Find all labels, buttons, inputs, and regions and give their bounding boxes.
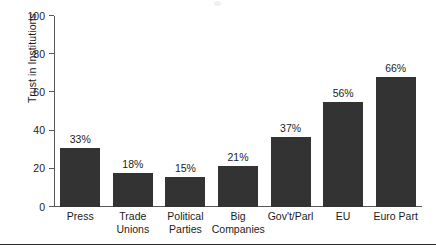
x-axis-tick-label: TradeUnions: [107, 210, 160, 235]
bar-chart-figure: Trust in Institutions 020406080100 33%18…: [0, 0, 436, 252]
bar: [113, 173, 153, 207]
bar: [323, 102, 363, 207]
bar-value-label: 56%: [333, 87, 354, 99]
y-axis-tick-label: 0: [39, 201, 45, 213]
y-axis-tick-label: 100: [27, 10, 45, 22]
x-axis-tick-labels: PressTradeUnionsPoliticalPartiesBigCompa…: [54, 210, 422, 246]
bar: [376, 77, 416, 207]
bar-value-label: 37%: [280, 122, 301, 134]
bar-value-label: 66%: [385, 62, 406, 74]
y-axis-tick-label: 80: [33, 48, 45, 60]
bar-value-label: 33%: [70, 133, 91, 145]
y-axis-tick-label: 60: [33, 86, 45, 98]
bar: [60, 148, 100, 207]
x-axis-tick-label: Gov't/Parl: [264, 210, 317, 223]
bar-value-label: 18%: [122, 158, 143, 170]
bar-value-label: 21%: [227, 151, 248, 163]
x-axis-tick-label: Euro Part: [369, 210, 422, 223]
x-axis-label-line: Gov't/Parl: [264, 210, 317, 223]
x-axis-label-line: Parties: [159, 223, 212, 236]
bar-group: 56%: [323, 16, 363, 207]
x-axis-label-line: Political: [159, 210, 212, 223]
bar-group: 37%: [271, 16, 311, 207]
bar-group: 18%: [113, 16, 153, 207]
bottom-divider-rule: [0, 244, 436, 245]
y-axis-tick-label: 40: [33, 124, 45, 136]
bar-group: 33%: [60, 16, 100, 207]
bar-group: 15%: [165, 16, 205, 207]
bar: [165, 177, 205, 207]
scan-artifact-speck: [214, 1, 221, 6]
bar-value-label: 15%: [175, 162, 196, 174]
bar-group: 66%: [376, 16, 416, 207]
x-axis-label-line: Big: [212, 210, 265, 223]
x-axis-label-line: Euro Part: [369, 210, 422, 223]
plot-area: 020406080100 33%18%15%21%37%56%66%: [54, 16, 422, 207]
x-axis-tick-label: Press: [54, 210, 107, 223]
x-axis-tick-label: PoliticalParties: [159, 210, 212, 235]
bar-series: 33%18%15%21%37%56%66%: [54, 16, 422, 207]
x-axis-tick-label: EU: [317, 210, 370, 223]
x-axis-label-line: Press: [54, 210, 107, 223]
bar: [218, 166, 258, 207]
x-axis-label-line: Unions: [107, 223, 160, 236]
x-axis-label-line: EU: [317, 210, 370, 223]
bar: [271, 137, 311, 207]
y-axis-tick-label: 20: [33, 162, 45, 174]
x-axis-label-line: Trade: [107, 210, 160, 223]
x-axis-tick-label: BigCompanies: [212, 210, 265, 235]
bar-group: 21%: [218, 16, 258, 207]
x-axis-label-line: Companies: [212, 223, 265, 236]
